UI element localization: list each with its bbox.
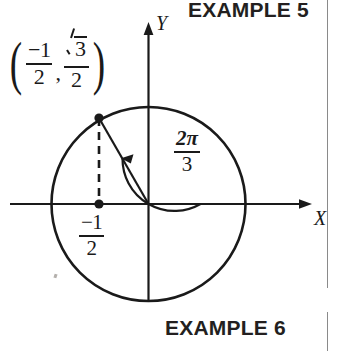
terminal-ray — [99, 118, 149, 204]
angle-numerator: 2π — [174, 128, 200, 151]
terminal-point-dot — [94, 113, 103, 122]
x-coordinate-denominator: 2 — [32, 65, 47, 89]
square-root-icon: 3 — [66, 36, 87, 61]
angle-denominator: 3 — [180, 153, 195, 176]
right-margin-rule-top — [327, 0, 328, 288]
x-coordinate-fraction: −1 2 — [26, 39, 52, 88]
y-coordinate-fraction: 3 2 — [64, 36, 89, 92]
y-coordinate-numerator: 3 — [64, 36, 89, 66]
point-coordinate-label: ( −1 2 , 3 2 ) — [6, 36, 109, 92]
right-margin-rule-bottom — [327, 312, 328, 351]
angle-fraction: 2π 3 — [174, 128, 200, 175]
coordinate-comma: , — [52, 60, 64, 92]
x-intercept-fraction: −1 2 — [79, 212, 104, 259]
x-axis-arrowhead — [299, 199, 312, 208]
x-intercept-denominator: 2 — [84, 237, 99, 260]
y-axis-label: Y — [156, 12, 167, 35]
open-paren: ( — [10, 38, 22, 90]
x-coordinate-numerator: −1 — [26, 39, 52, 63]
y-coordinate-denominator: 2 — [69, 68, 84, 92]
x-intercept-numerator: −1 — [79, 212, 104, 235]
radicand: 3 — [74, 36, 87, 61]
close-paren: ) — [93, 38, 105, 90]
x-projection-dot — [94, 199, 103, 208]
y-axis-arrowhead — [144, 22, 154, 35]
example-6-heading: EXAMPLE 6 — [165, 316, 286, 340]
angle-label: 2π 3 — [174, 128, 200, 175]
x-intercept-label: −1 2 — [79, 212, 104, 259]
figure-page: EXAMPLE 5 ( −1 2 , — [0, 0, 339, 351]
x-axis-label: X — [314, 207, 326, 230]
